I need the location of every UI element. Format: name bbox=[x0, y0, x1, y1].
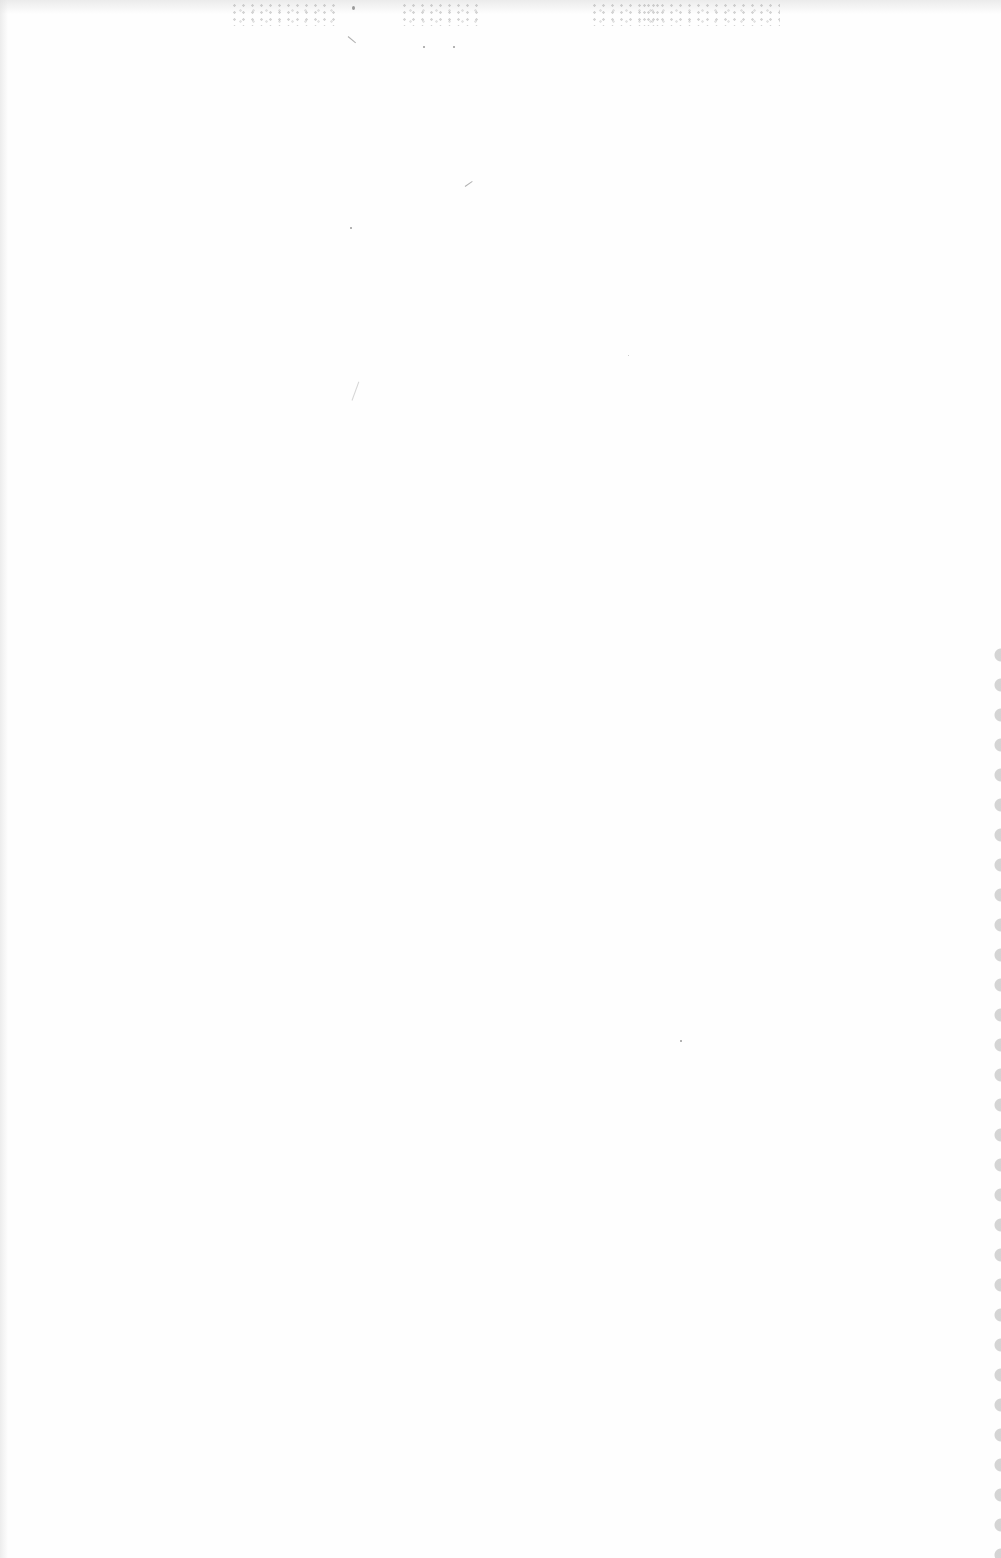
paper-fiber bbox=[465, 181, 473, 187]
paper-speck bbox=[453, 46, 455, 48]
paper-noise-cluster bbox=[400, 2, 480, 26]
paper-noise-cluster bbox=[640, 2, 780, 26]
deckled-right-edge bbox=[987, 640, 1001, 1558]
paper-speck bbox=[628, 355, 629, 356]
blank-paper-page bbox=[0, 0, 1001, 1558]
paper-fiber bbox=[352, 382, 360, 401]
paper-fiber bbox=[348, 36, 356, 43]
paper-speck bbox=[423, 46, 425, 48]
paper-speck bbox=[350, 227, 352, 229]
paper-noise-cluster bbox=[230, 2, 340, 26]
left-edge-shadow bbox=[0, 0, 8, 1558]
top-edge-shadow bbox=[0, 0, 1001, 14]
paper-speck bbox=[680, 1040, 682, 1042]
paper-speck bbox=[352, 6, 355, 10]
